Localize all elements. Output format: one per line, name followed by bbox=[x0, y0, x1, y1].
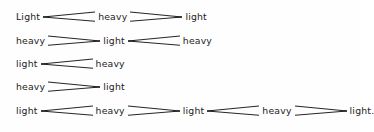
syllable-label: light bbox=[16, 106, 38, 115]
syllable-label: light bbox=[183, 106, 205, 115]
arrow-left-icon bbox=[128, 33, 180, 49]
arrow-left-icon bbox=[207, 103, 259, 119]
diagram-line: lightheavylightheavylight. bbox=[0, 100, 374, 122]
arrow-right-icon bbox=[48, 79, 100, 95]
syllable-label: heavy bbox=[16, 82, 45, 91]
syllable-label: heavy bbox=[98, 12, 127, 21]
arrow-right-icon bbox=[128, 103, 180, 119]
syllable-label: light. bbox=[350, 106, 374, 115]
syllable-label: light bbox=[185, 12, 207, 21]
syllable-label: heavy bbox=[262, 106, 291, 115]
syllable-label: light bbox=[16, 59, 38, 68]
arrow-right-icon bbox=[48, 33, 100, 49]
syllable-label: Light bbox=[16, 12, 40, 21]
arrow-left-icon bbox=[41, 103, 93, 119]
syllable-label: heavy bbox=[183, 36, 212, 45]
arrow-right-icon bbox=[295, 103, 347, 119]
diagram-line: heavylight bbox=[0, 76, 125, 98]
syllable-label: heavy bbox=[96, 59, 125, 68]
syllable-label: heavy bbox=[96, 106, 125, 115]
syllable-label: heavy bbox=[16, 36, 45, 45]
diagram-line: heavylightheavy bbox=[0, 30, 212, 52]
arrow-left-icon bbox=[41, 56, 93, 72]
arrow-left-icon bbox=[43, 9, 95, 25]
arrow-right-icon bbox=[130, 9, 182, 25]
syllable-label: light bbox=[103, 36, 125, 45]
diagram-line: lightheavy bbox=[0, 53, 125, 75]
syllable-label: light bbox=[103, 82, 125, 91]
diagram-line: Lightheavylight bbox=[0, 6, 207, 28]
